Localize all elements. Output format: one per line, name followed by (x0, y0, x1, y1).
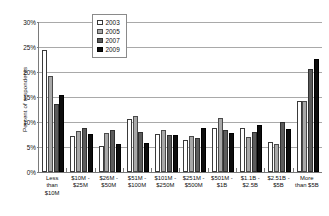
bar-2003 (99, 146, 104, 173)
bar-2003 (240, 128, 245, 173)
bar-group (39, 22, 67, 172)
bar-2003 (183, 140, 188, 173)
legend-label-2007: 2007 (106, 37, 120, 44)
bar-2009 (144, 143, 149, 173)
bar-2005 (246, 137, 251, 173)
bar-2003 (42, 50, 47, 173)
x-axis-label: $26M -$50M (95, 175, 123, 197)
bar-2007 (110, 130, 115, 173)
bar-2007 (308, 69, 313, 173)
legend-item-2009: 2009 (97, 45, 120, 54)
legend: 2003 2005 2007 2009 (92, 14, 127, 58)
legend-item-2003: 2003 (97, 18, 120, 27)
bar-group (265, 22, 293, 172)
bar-2009 (88, 134, 93, 172)
bar-group (124, 22, 152, 172)
legend-swatch-icon-2003 (97, 20, 103, 26)
y-tick-label: 0% (27, 169, 36, 176)
bar-2009 (201, 128, 206, 173)
legend-label-2003: 2003 (106, 19, 120, 26)
bar-2007 (82, 128, 87, 173)
bar-2005 (218, 118, 223, 173)
bar-2003 (155, 134, 160, 173)
bar-2003 (297, 101, 302, 172)
bar-2007 (54, 104, 59, 172)
bar-2007 (223, 130, 228, 173)
x-axis-label: $101M -$250M (151, 175, 179, 197)
x-axis-label: $251M -$500M (179, 175, 207, 197)
bar-2007 (252, 132, 257, 172)
legend-item-2005: 2005 (97, 27, 120, 36)
bar-2005 (48, 76, 53, 173)
x-axis-label: $1.1B -$2.5B (236, 175, 264, 197)
x-axis-label: $51M -$100M (123, 175, 151, 197)
bar-2009 (286, 129, 291, 173)
bar-groups (39, 22, 322, 172)
bar-2009 (229, 133, 234, 173)
y-tick-label: 10% (23, 119, 36, 126)
x-axis-labels: Lessthan$10M$10M -$25M$26M -$50M$51M -$1… (38, 175, 321, 197)
bar-2005 (133, 116, 138, 172)
bar-2005 (104, 133, 109, 172)
bar-2003 (70, 136, 75, 172)
bar-2009 (59, 95, 64, 173)
y-tick-label: 30% (23, 19, 36, 26)
bar-2009 (173, 135, 178, 172)
bar-2009 (116, 144, 121, 173)
y-tick-mark (37, 172, 39, 173)
y-tick-label: 25% (23, 44, 36, 51)
bar-2007 (167, 135, 172, 173)
plot-area: 0%5%10%15%20%25%30% (38, 22, 322, 173)
bar-2009 (314, 59, 319, 173)
bar-2005 (302, 101, 307, 172)
bar-2005 (161, 130, 166, 172)
bar-group (180, 22, 208, 172)
bar-group (294, 22, 322, 172)
bar-2003 (212, 128, 217, 173)
bar-2005 (76, 131, 81, 172)
x-axis-label: $501M -$1B (208, 175, 236, 197)
bar-group (152, 22, 180, 172)
bar-2007 (280, 122, 285, 172)
legend-swatch-icon-2005 (97, 29, 103, 35)
y-tick-label: 15% (23, 94, 36, 101)
bar-2009 (257, 125, 262, 173)
x-axis-label: $10M -$25M (66, 175, 94, 197)
legend-swatch-icon-2009 (97, 47, 103, 53)
legend-item-2007: 2007 (97, 36, 120, 45)
bar-group (209, 22, 237, 172)
bar-2005 (189, 136, 194, 172)
x-axis-label: Lessthan$10M (38, 175, 66, 197)
legend-label-2009: 2009 (106, 46, 120, 53)
x-axis-label: Morethan $5B (293, 175, 321, 197)
bar-2003 (268, 142, 273, 172)
x-axis-label: $2.51B -$5B (264, 175, 292, 197)
y-tick-label: 5% (27, 144, 36, 151)
legend-swatch-icon-2007 (97, 38, 103, 44)
y-tick-label: 20% (23, 69, 36, 76)
bar-2007 (195, 138, 200, 172)
bar-chart: Percent of respondents 0%5%10%15%20%25%3… (0, 0, 329, 216)
bar-2007 (138, 132, 143, 172)
bar-2003 (127, 119, 132, 173)
bar-2005 (274, 144, 279, 172)
legend-label-2005: 2005 (106, 28, 120, 35)
bar-group (237, 22, 265, 172)
